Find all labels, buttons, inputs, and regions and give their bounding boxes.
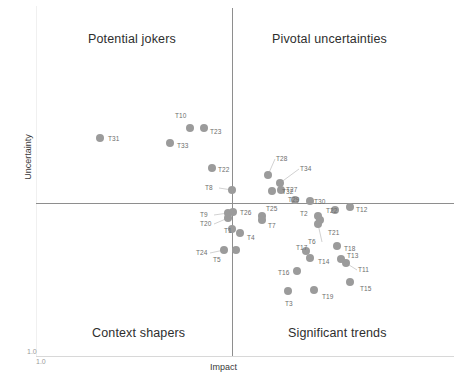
x-axis-line bbox=[36, 203, 454, 204]
x-axis-tick-label-origin: 1.0 bbox=[36, 358, 46, 365]
data-point-label: T20 bbox=[200, 220, 212, 227]
data-point bbox=[258, 216, 266, 224]
data-point-label: T22 bbox=[326, 207, 338, 214]
data-point-label: T16 bbox=[278, 269, 290, 276]
data-point bbox=[310, 286, 318, 294]
data-point-label: T17 bbox=[296, 244, 308, 251]
data-point bbox=[284, 287, 292, 295]
plot-area: Potential jokers Pivotal uncertainties C… bbox=[0, 0, 454, 388]
data-point bbox=[186, 124, 194, 132]
quadrant-label-context-shapers: Context shapers bbox=[92, 326, 185, 340]
data-point-label: T14 bbox=[318, 258, 330, 265]
data-point bbox=[333, 242, 341, 250]
data-point-label: T28 bbox=[276, 155, 288, 162]
data-point bbox=[208, 164, 216, 172]
data-point-label: T2 bbox=[300, 210, 308, 217]
data-point bbox=[232, 246, 240, 254]
data-point bbox=[228, 186, 236, 194]
data-point-label: T31 bbox=[108, 135, 120, 142]
data-point-label: T1 bbox=[224, 227, 232, 234]
data-point-label: T13 bbox=[347, 252, 359, 259]
data-point-label: T22 bbox=[218, 166, 230, 173]
data-point-label: T9 bbox=[200, 211, 208, 218]
data-point bbox=[220, 246, 228, 254]
data-point-label: T25 bbox=[266, 205, 278, 212]
data-point bbox=[166, 139, 174, 147]
data-point-label: T34 bbox=[300, 165, 312, 172]
data-point-label: T8 bbox=[205, 184, 213, 191]
data-point bbox=[314, 220, 322, 228]
y-axis-tick-label-origin: 1.0 bbox=[27, 348, 37, 355]
data-point-label: T7 bbox=[268, 222, 276, 229]
quadrant-label-pivotal-uncertainties: Pivotal uncertainties bbox=[272, 32, 387, 46]
data-point bbox=[229, 208, 237, 216]
data-point bbox=[346, 203, 354, 211]
data-point bbox=[264, 171, 272, 179]
data-point bbox=[346, 278, 354, 286]
data-point bbox=[342, 259, 350, 267]
impact-uncertainty-matrix-figure: Potential jokers Pivotal uncertainties C… bbox=[0, 0, 454, 388]
data-point-label: T23 bbox=[210, 128, 222, 135]
data-point-label: T29 bbox=[288, 196, 300, 203]
x-axis-title: Impact bbox=[210, 362, 237, 372]
data-point-label: T24 bbox=[196, 249, 208, 256]
y-axis-title: Uncertainty bbox=[23, 122, 33, 192]
data-point-label: T21 bbox=[328, 229, 340, 236]
data-point-label: T26 bbox=[240, 209, 252, 216]
data-point bbox=[236, 229, 244, 237]
data-point-label: T10 bbox=[175, 112, 187, 119]
data-point-label: T33 bbox=[177, 142, 189, 149]
data-point bbox=[200, 124, 208, 132]
data-point bbox=[306, 254, 314, 262]
data-point-label: T18 bbox=[344, 245, 356, 252]
data-point bbox=[293, 267, 301, 275]
data-point bbox=[268, 187, 276, 195]
data-point-label: T5 bbox=[213, 256, 221, 263]
data-point-label: T19 bbox=[322, 293, 334, 300]
data-point-label: T4 bbox=[247, 234, 255, 241]
data-point-label: T11 bbox=[358, 266, 369, 273]
data-point-label: T12 bbox=[356, 206, 368, 213]
quadrant-label-potential-jokers: Potential jokers bbox=[88, 32, 176, 46]
quadrant-label-significant-trends: Significant trends bbox=[288, 326, 387, 340]
data-point-label: T30 bbox=[314, 198, 326, 205]
y-axis-line bbox=[232, 8, 233, 356]
data-point-label: T6 bbox=[308, 238, 316, 245]
data-point bbox=[306, 197, 314, 205]
data-point-label: T27 bbox=[286, 186, 298, 193]
data-point-label: T15 bbox=[360, 285, 372, 292]
data-point bbox=[96, 134, 104, 142]
data-point-label: T3 bbox=[285, 300, 293, 307]
plot-bottom-border bbox=[36, 356, 454, 357]
plot-left-border bbox=[36, 6, 37, 356]
